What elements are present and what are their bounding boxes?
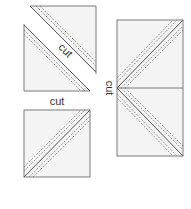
right-rectangle — [117, 20, 183, 156]
between-cut-label: cut — [50, 95, 65, 107]
cutting-diagram: cut cut cut — [0, 0, 191, 209]
bottom-square — [24, 110, 90, 177]
vertical-cut-label: cut — [104, 81, 116, 96]
